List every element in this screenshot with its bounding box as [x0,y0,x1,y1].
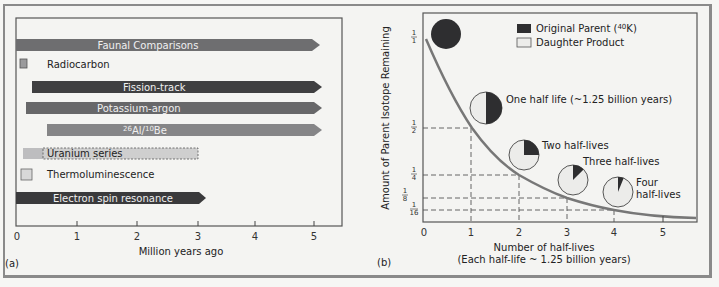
x-tick: 4 [611,227,617,238]
y-axis-title: Amount of Parent Isotope Remaining [380,26,391,210]
bar-label: Thermoluminescence [46,169,154,180]
pie-1-half-life [470,92,502,124]
annotation-one-half-life: One half life (~1.25 billion years) [506,94,672,105]
x-tick: 1 [74,231,80,242]
x-tick: 0 [421,227,427,238]
svg-text:1: 1 [412,166,416,174]
y-tick-1-2: 1 2 [411,119,417,135]
x-tick: 1 [468,227,474,238]
bar-label: Potassium-argon [97,103,181,114]
svg-text:4: 4 [412,174,417,182]
svg-text:1: 1 [412,29,416,37]
bar-fission-track: Fission-track [32,81,322,93]
panel-label: (a) [5,258,19,269]
x-tick: 2 [134,231,140,242]
legend-label-daughter: Daughter Product [536,37,624,48]
figure-canvas: Faunal Comparisons Radiocarbon Fission-t… [0,0,719,287]
x-tick: 0 [14,231,20,242]
bar-electron-spin-resonance: Electron spin resonance [16,192,206,204]
panel-a: Faunal Comparisons Radiocarbon Fission-t… [5,18,342,269]
x-tick: 5 [311,231,317,242]
y-tick-1-4: 1 4 [411,166,417,182]
bar-label: Faunal Comparisons [98,40,199,51]
annotation-four-half-lives-1: Four [636,177,659,188]
pie-3-half-lives [558,165,588,195]
svg-text:8: 8 [403,195,407,203]
bar-potassium-argon: Potassium-argon [26,102,322,114]
x-tick: 4 [252,231,258,242]
svg-text:1: 1 [412,37,416,45]
svg-text:1: 1 [403,187,407,195]
bar-label: Electron spin resonance [53,193,173,204]
svg-text:1: 1 [412,119,416,127]
x-tick: 5 [660,227,666,238]
y-tick-1-1: 1 1 [411,29,417,45]
bar-label: Radiocarbon [47,59,110,70]
x-tick: 3 [564,227,570,238]
x-axis-title: Number of half-lives [494,242,595,253]
bar-label: Uranium series [47,148,123,159]
annotation-three-half-lives: Three half-lives [582,156,659,167]
svg-text:2: 2 [412,127,416,135]
panel-label: (b) [377,257,391,268]
x-axis-title: Million years ago [139,246,224,257]
bar-uranium-series: Uranium series [23,148,198,159]
x-axis-subtitle: (Each half-life ~ 1.25 billion years) [457,254,630,265]
pie-2-half-lives [509,140,539,170]
x-tick: 3 [195,231,201,242]
y-tick-1-16: 1 16 [410,201,419,217]
bar-faunal-comparisons: Faunal Comparisons [16,39,320,51]
bar-label: Fission-track [123,82,186,93]
svg-text:16: 16 [410,209,419,217]
x-tick: 2 [516,227,522,238]
pie-0-half-lives [431,19,461,49]
panel-b: 0 1 2 3 4 5 Number of half-lives (Each h… [377,13,697,268]
svg-text:1: 1 [412,201,416,209]
annotation-two-half-lives: Two half-lives [541,140,609,151]
y-tick-1-8: 1 8 [402,187,408,203]
bar-al-be: 26Al/10Be [47,124,322,136]
annotation-four-half-lives-2: half-lives [636,189,681,200]
legend-swatch-daughter [517,38,531,47]
legend-swatch-parent [517,24,531,33]
pie-4-half-lives [603,177,633,207]
